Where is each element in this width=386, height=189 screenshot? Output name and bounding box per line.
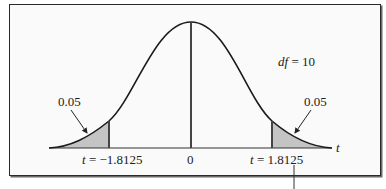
df-label: df = 10 bbox=[278, 54, 315, 69]
axis-label-t: t bbox=[336, 140, 340, 155]
t-distribution-chart: df = 10 0.05 0.05 t = −1.8125 0 t = 1.81… bbox=[0, 0, 386, 189]
right-critical-label: t = 1.8125 bbox=[250, 152, 303, 167]
left-tail-label: 0.05 bbox=[58, 94, 81, 109]
left-critical-label: t = −1.8125 bbox=[82, 152, 143, 167]
right-tail-area bbox=[272, 121, 332, 148]
right-tail-label: 0.05 bbox=[304, 94, 327, 109]
left-tail-area bbox=[49, 121, 109, 148]
right-tail-arrow bbox=[295, 110, 311, 133]
zero-label: 0 bbox=[187, 152, 194, 167]
left-tail-arrow bbox=[71, 110, 87, 133]
